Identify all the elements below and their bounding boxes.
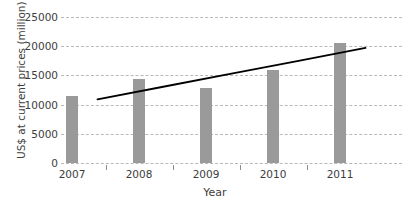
x-axis-label: Year	[0, 186, 420, 199]
x-tick-label-2007: 2007	[49, 168, 95, 180]
plot-area: 25000 20000 15000 10000 5000 0	[64, 17, 399, 163]
x-tick-label-2011: 2011	[317, 168, 363, 180]
y-tick-label-10000: 10000	[12, 99, 58, 111]
x-tick-label-2008: 2008	[116, 168, 162, 180]
y-tick-label-20000: 20000	[12, 40, 58, 52]
x-tick-label-2009: 2009	[183, 168, 229, 180]
trend-line	[64, 17, 399, 163]
x-axis-labels: 2007 2008 2009 2010 2011	[64, 168, 399, 184]
y-tick-label-15000: 15000	[12, 69, 58, 81]
y-tick-label-5000: 5000	[12, 128, 58, 140]
y-tick-label-25000: 25000	[12, 11, 58, 23]
x-tick-label-2010: 2010	[250, 168, 296, 180]
chart-container: US$ at current prices (million) 25000 20…	[0, 0, 420, 212]
x-axis-label-text: Year	[203, 186, 226, 199]
